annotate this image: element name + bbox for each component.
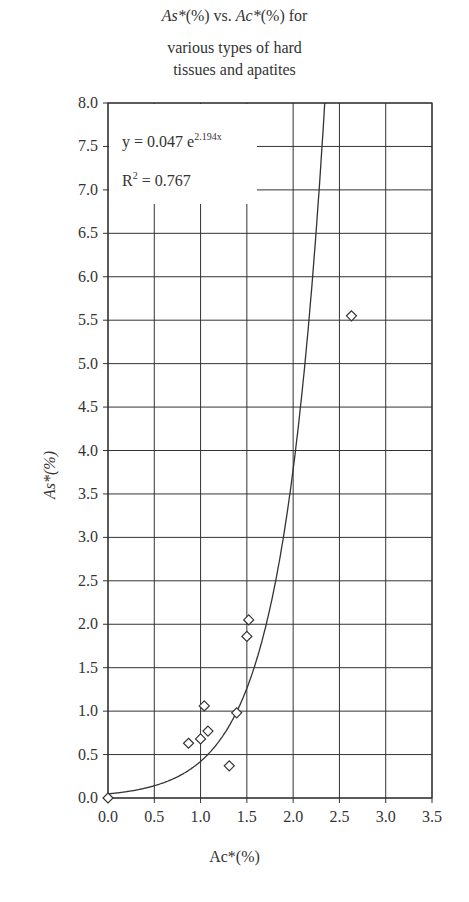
x-tick-label: 0.5 xyxy=(144,808,164,825)
y-tick-label: 5.5 xyxy=(78,311,98,328)
data-point-diamond xyxy=(196,734,206,744)
y-tick-label: 6.0 xyxy=(78,268,98,285)
y-tick-label: 2.0 xyxy=(78,615,98,632)
data-point-diamond xyxy=(242,631,252,641)
y-tick-label: 0.5 xyxy=(78,746,98,763)
y-tick-label: 4.0 xyxy=(78,442,98,459)
exponential-trendline xyxy=(108,103,325,794)
y-tick-label: 5.0 xyxy=(78,355,98,372)
y-tick-label: 8.0 xyxy=(78,94,98,111)
data-point-diamond xyxy=(103,793,113,803)
x-axis-label: Ac*(%) xyxy=(0,848,469,866)
y-tick-label: 1.5 xyxy=(78,659,98,676)
equation-box xyxy=(109,104,257,204)
x-tick-label: 3.5 xyxy=(422,808,442,825)
y-axis-label: As*(%) xyxy=(41,435,59,515)
data-point-diamond xyxy=(184,738,194,748)
data-point-diamond xyxy=(224,761,234,771)
data-point-diamond xyxy=(232,708,242,718)
y-tick-label: 0.0 xyxy=(78,789,98,806)
y-tick-label: 7.5 xyxy=(78,137,98,154)
data-point-diamond xyxy=(346,311,356,321)
y-tick-label: 3.0 xyxy=(78,528,98,545)
y-tick-label: 3.5 xyxy=(78,485,98,502)
x-tick-label: 0.0 xyxy=(98,808,118,825)
y-tick-label: 7.0 xyxy=(78,181,98,198)
x-tick-label: 2.0 xyxy=(283,808,303,825)
x-tick-label: 2.5 xyxy=(329,808,349,825)
y-tick-label: 6.5 xyxy=(78,224,98,241)
scatter-plot: 0.00.51.01.52.02.53.03.50.00.51.01.52.02… xyxy=(0,0,469,902)
x-tick-label: 1.5 xyxy=(237,808,257,825)
r-squared: R2 = 0.767 xyxy=(122,170,191,189)
data-point-diamond xyxy=(203,726,213,736)
y-tick-label: 1.0 xyxy=(78,702,98,719)
data-point-diamond xyxy=(244,615,254,625)
y-tick-label: 4.5 xyxy=(78,398,98,415)
y-tick-label: 2.5 xyxy=(78,572,98,589)
x-tick-label: 3.0 xyxy=(376,808,396,825)
x-tick-label: 1.0 xyxy=(191,808,211,825)
